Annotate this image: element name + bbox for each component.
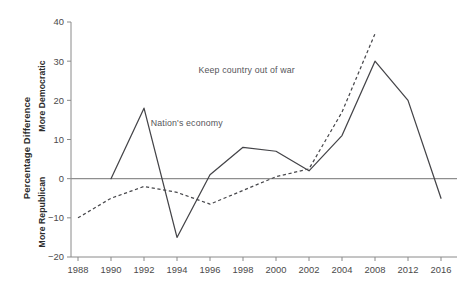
x-axis-tick-label: 1992: [134, 264, 155, 275]
x-axis-tick-label: 1988: [68, 264, 89, 275]
y-axis-tick-label: 20: [54, 95, 64, 106]
y-axis-tick-label: 30: [54, 56, 64, 67]
chart-figure: −20−100102030401988199019921994199619982…: [0, 0, 463, 296]
x-axis-tick-label: 2008: [365, 264, 386, 275]
y-axis-tick-label: 10: [54, 134, 64, 145]
y-axis-title: Percentage Difference: [21, 97, 32, 199]
series-line-dashed: [78, 34, 375, 218]
y-axis-title-republican: More Republican: [37, 177, 47, 248]
x-axis-tick-label: 1998: [233, 264, 254, 275]
series-annotation: Nation's economy: [151, 118, 223, 128]
y-axis-title-democratic: More Democratic: [37, 60, 47, 131]
x-axis-tick-label: 2004: [332, 264, 353, 275]
x-axis-tick-label: 1994: [167, 264, 188, 275]
y-axis-tick-label: 0: [59, 173, 64, 184]
x-axis-tick-label: 1996: [200, 264, 221, 275]
x-axis-tick-label: 2002: [299, 264, 320, 275]
x-axis-tick-label: 2012: [398, 264, 419, 275]
y-axis-tick-label: −10: [48, 212, 64, 223]
x-axis-tick-label: 2000: [266, 264, 287, 275]
x-axis-tick-label: 1990: [101, 264, 122, 275]
line-chart: −20−100102030401988199019921994199619982…: [0, 0, 463, 296]
y-axis-tick-label: −20: [48, 251, 64, 262]
series-annotation: Keep country out of war: [198, 65, 294, 75]
series-line-solid: [111, 61, 441, 237]
x-axis-tick-label: 2016: [431, 264, 452, 275]
y-axis-tick-label: 40: [54, 16, 64, 27]
